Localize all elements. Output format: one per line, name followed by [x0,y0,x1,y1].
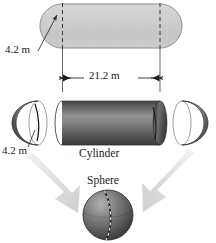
length-label: 21.2 m [87,70,122,81]
cylinder-shape [55,101,167,145]
figure-canvas [0,0,216,243]
sphere-label: Sphere [87,175,119,187]
left-hemisphere-shape [12,101,47,145]
left-flow-arrow [26,153,80,213]
right-hemisphere-shape [173,101,208,145]
radius-bottom-label: 4.2 m [2,145,27,156]
capsule-shape [40,4,182,48]
sphere-shape [83,190,133,240]
radius-top-label: 4.2 m [5,44,30,55]
right-flow-arrow [142,150,194,212]
geometry-figure: 4.2 m 21.2 m 4.2 m Cylinder Sphere [0,0,216,243]
cylinder-label: Cylinder [79,148,119,160]
